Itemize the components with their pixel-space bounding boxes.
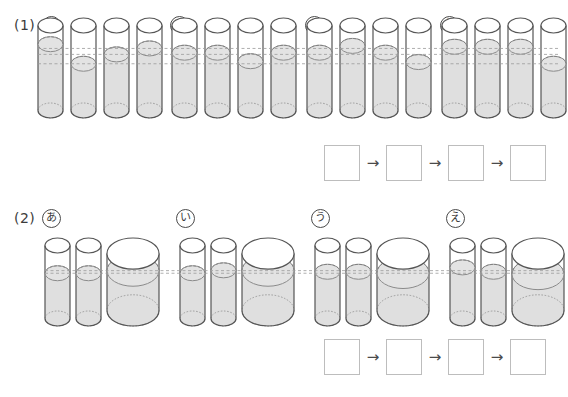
cylinder-s2-g2e-1 <box>450 238 475 326</box>
answer-row-2: → → → <box>324 339 546 375</box>
cylinder-s1-g1a-3 <box>104 18 129 118</box>
answer-box-2-1[interactable] <box>324 339 360 375</box>
answer-arrow-1-3: → <box>484 156 510 171</box>
cylinder-s1-g1u-2 <box>340 18 365 118</box>
cylinder-s2-g2i-2 <box>211 238 236 326</box>
cylinder-s1-g1i-4 <box>271 18 296 118</box>
answer-box-2-2[interactable] <box>386 339 422 375</box>
problem-section-1: (1) あ い う え → → → <box>0 0 568 198</box>
answer-box-1-3[interactable] <box>448 145 484 181</box>
cylinder-s2-g2i-1 <box>180 238 205 326</box>
answer-row-1: → → → <box>324 145 546 181</box>
cylinder-s2-g2e-3 <box>512 238 564 326</box>
cylinder-s2-g2a-2 <box>76 238 101 326</box>
cylinder-s1-g1a-4 <box>137 18 162 118</box>
cylinder-s2-g2u-1 <box>315 238 340 326</box>
cylinder-s1-g1u-4 <box>406 18 431 118</box>
cylinder-s1-g1i-3 <box>238 18 263 118</box>
problem-section-2: (2) あ い う え → → → <box>0 198 568 397</box>
cylinder-s1-g1i-1 <box>172 18 197 118</box>
answer-arrow-2-2: → <box>422 350 448 365</box>
cylinder-s1-g1a-1 <box>38 18 63 118</box>
section-2-illustration <box>0 226 568 336</box>
answer-arrow-1-2: → <box>422 156 448 171</box>
section-2-number: (2) <box>14 210 35 226</box>
answer-box-2-3[interactable] <box>448 339 484 375</box>
cylinder-s2-g2u-3 <box>377 238 429 326</box>
cylinder-s1-g1e-3 <box>508 18 533 118</box>
cylinder-s2-g2a-1 <box>45 238 70 326</box>
answer-box-1-2[interactable] <box>386 145 422 181</box>
cylinder-s1-g1a-2 <box>71 18 96 118</box>
cylinder-s2-g2i-3 <box>242 238 294 326</box>
section-1-illustration <box>0 0 568 140</box>
cylinder-s1-g1e-2 <box>475 18 500 118</box>
answer-box-1-1[interactable] <box>324 145 360 181</box>
cylinder-s1-g1u-1 <box>307 18 332 118</box>
answer-box-1-4[interactable] <box>510 145 546 181</box>
cylinder-s2-g2u-2 <box>346 238 371 326</box>
cylinder-s1-g1u-3 <box>373 18 398 118</box>
answer-arrow-2-3: → <box>484 350 510 365</box>
answer-box-2-4[interactable] <box>510 339 546 375</box>
cylinder-s1-g1e-1 <box>442 18 467 118</box>
worksheet-page: (1) あ い う え → → → (2) あ <box>0 0 568 397</box>
cylinder-s1-g1i-2 <box>205 18 230 118</box>
cylinder-s2-g2a-3 <box>107 238 159 326</box>
cylinder-s1-g1e-4 <box>541 18 566 118</box>
answer-arrow-1-1: → <box>360 156 386 171</box>
cylinder-s2-g2e-2 <box>481 238 506 326</box>
answer-arrow-2-1: → <box>360 350 386 365</box>
